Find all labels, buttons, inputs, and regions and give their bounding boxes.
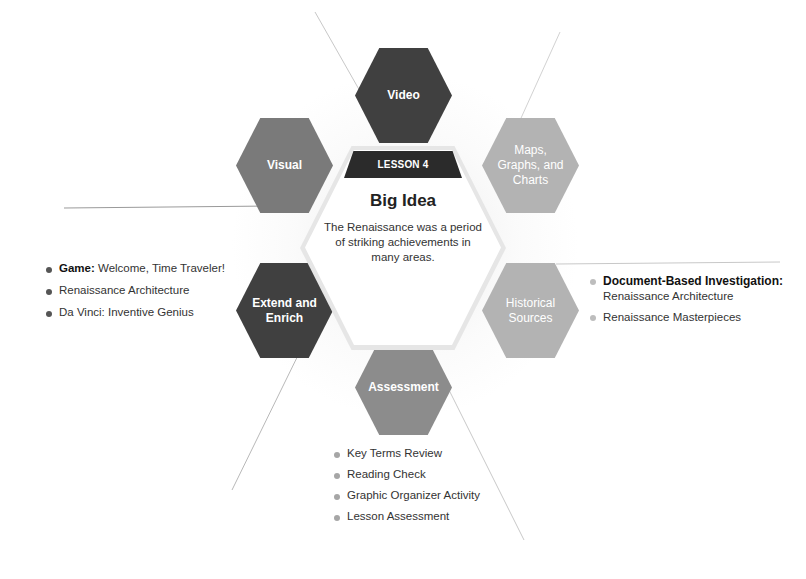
list-item-text: Renaissance Masterpieces [603,311,741,323]
extend-enrich-list: Game: Welcome, Time Traveler! Renaissanc… [46,262,225,328]
hex-visual-label: Visual [257,158,312,173]
list-item[interactable]: Da Vinci: Inventive Genius [46,306,225,328]
list-item-text: Graphic Organizer Activity [347,489,480,501]
bullet-icon [46,289,52,295]
hex-extend-label: Extend and Enrich [236,296,333,326]
bullet-icon [590,315,596,321]
historical-sources-list: Document-Based Investigation: Renaissanc… [590,274,783,331]
list-item-text: Welcome, Time Traveler! [95,262,225,274]
list-item[interactable]: Renaissance Architecture [46,284,225,306]
list-item[interactable]: Key Terms Review [334,447,480,468]
lesson-diagram: Video Visual Maps, Graphs, and Charts Ex… [0,0,806,579]
list-item-text: Lesson Assessment [347,510,449,522]
hex-assessment-label: Assessment [358,380,449,395]
bullet-icon [590,279,596,285]
list-item-bold: Game: [59,262,95,274]
list-item-text: Reading Check [347,468,426,480]
list-item-text: Renaissance Architecture [603,290,733,302]
list-item[interactable]: Document-Based Investigation: Renaissanc… [590,274,783,304]
hex-maps-label: Maps, Graphs, and Charts [482,143,579,188]
big-idea-title: Big Idea [320,191,486,211]
list-item[interactable]: Reading Check [334,468,480,489]
list-item-bold: Document-Based Investigation: [603,274,783,288]
bullet-icon [46,267,52,273]
lesson-banner: LESSON 4 [344,151,462,178]
list-item-text: Renaissance Architecture [59,284,189,296]
list-item-text: Da Vinci: Inventive Genius [59,306,194,318]
bullet-icon [334,452,340,458]
bullet-icon [46,311,52,317]
hex-video-label: Video [377,88,429,103]
hex-historical-label: Historical Sources [482,296,579,326]
list-item[interactable]: Lesson Assessment [334,510,480,531]
list-item[interactable]: Renaissance Masterpieces [590,310,783,325]
bullet-icon [334,473,340,479]
assessment-list: Key Terms Review Reading Check Graphic O… [334,447,480,531]
bullet-icon [334,494,340,500]
list-item-text: Key Terms Review [347,447,442,459]
big-idea-text: The Renaissance was a period of striking… [322,220,484,265]
list-item[interactable]: Game: Welcome, Time Traveler! [46,262,225,284]
list-item[interactable]: Graphic Organizer Activity [334,489,480,510]
bullet-icon [334,515,340,521]
